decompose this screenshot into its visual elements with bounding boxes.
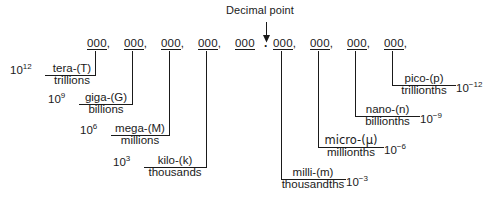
prefix-name-tera: tera-(T): [44, 62, 100, 74]
prefix-block-micro: micro-(μ) millionths: [319, 134, 383, 159]
digit-triplet: 000: [235, 37, 255, 50]
magnitude-name-tera: trillions: [44, 74, 100, 87]
digit-group-9: 000,: [384, 37, 407, 49]
magnitude-name-giga: billions: [78, 103, 134, 116]
digit-triplet: 000: [161, 37, 181, 50]
digit-group-3: 000,: [161, 37, 184, 49]
exponent-giga: 9: [61, 91, 65, 100]
prefix-block-kilo: kilo-(k) thousands: [143, 154, 207, 179]
prefix-block-pico: pico-(p) trillionths: [393, 72, 455, 97]
power-label-tera: 1012: [10, 64, 32, 76]
exponent-nano: −9: [433, 111, 442, 120]
place-value-chart: Decimal point 000, 000, 000, 000, 000 00…: [0, 0, 497, 205]
group-separator: ,: [330, 37, 333, 49]
digit-triplet: 000: [273, 37, 293, 50]
prefix-name-pico: pico-(p): [393, 72, 455, 84]
exponent-milli: −3: [359, 174, 368, 183]
prefix-block-mega: mega-(M) millions: [110, 122, 170, 147]
digit-group-5: 000: [235, 37, 255, 49]
digit-group-6: 000,: [273, 37, 296, 49]
magnitude-name-kilo: thousands: [143, 166, 207, 179]
group-separator: ,: [107, 37, 110, 49]
prefix-block-nano: nano-(n) billionths: [356, 103, 419, 128]
magnitude-name-milli: thousandths: [281, 178, 345, 191]
power-label-nano: 10−9: [420, 113, 442, 125]
exponent-micro: −6: [397, 142, 406, 151]
group-separator: ,: [404, 37, 407, 49]
prefix-block-milli: milli-(m) thousandths: [281, 166, 345, 191]
prefix-name-nano: nano-(n): [356, 103, 419, 115]
power-label-micro: 10−6: [384, 144, 406, 156]
digit-group-2: 000,: [124, 37, 147, 49]
prefix-name-kilo: kilo-(k): [143, 154, 207, 166]
prefix-name-mega: mega-(M): [110, 122, 170, 134]
exponent-pico: −12: [469, 80, 483, 89]
digit-triplet: 000: [310, 37, 330, 50]
magnitude-name-micro: millionths: [319, 146, 383, 159]
digit-group-1: 000,: [87, 37, 110, 49]
power-label-giga: 109: [48, 93, 65, 105]
digit-triplet: 000: [124, 37, 144, 50]
prefix-name-micro: micro-(μ): [319, 134, 383, 146]
digit-group-4: 000,: [198, 37, 221, 49]
group-separator: ,: [181, 37, 184, 49]
exponent-kilo: 3: [126, 154, 130, 163]
magnitude-name-nano: billionths: [356, 115, 419, 128]
decimal-point-glyph: .: [264, 37, 267, 49]
power-label-kilo: 103: [113, 156, 130, 168]
digit-triplet: 000: [198, 37, 218, 50]
exponent-tera: 12: [23, 62, 32, 71]
prefix-name-giga: giga-(G): [78, 91, 134, 103]
digit-triplet: 000: [347, 37, 367, 50]
digit-group-7: 000,: [310, 37, 333, 49]
magnitude-name-pico: trillionths: [393, 84, 455, 97]
group-separator: ,: [293, 37, 296, 49]
group-separator: ,: [367, 37, 370, 49]
power-label-pico: 10−12: [456, 82, 482, 94]
digit-group-8: 000,: [347, 37, 370, 49]
connector-lines: [0, 0, 497, 205]
prefix-name-milli: milli-(m): [281, 166, 345, 178]
decimal-point-caption: Decimal point: [226, 5, 294, 16]
group-separator: ,: [218, 37, 221, 49]
wire-milli: [282, 51, 346, 180]
magnitude-name-mega: millions: [110, 134, 170, 147]
power-label-milli: 10−3: [346, 176, 368, 188]
group-separator: ,: [144, 37, 147, 49]
exponent-mega: 6: [93, 122, 97, 131]
digit-triplet: 000: [384, 37, 404, 50]
digit-triplet: 000: [87, 37, 107, 50]
prefix-block-tera: tera-(T) trillions: [44, 62, 100, 87]
power-label-mega: 106: [80, 124, 97, 136]
wire-kilo: [144, 51, 207, 168]
prefix-block-giga: giga-(G) billions: [78, 91, 134, 116]
